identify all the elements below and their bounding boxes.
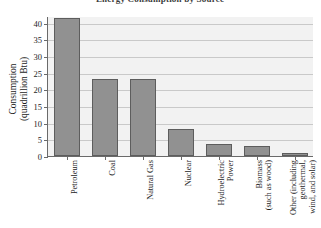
x-axis-label: Biomass(such as wood) (255, 160, 274, 226)
x-axis-label-line: wind, and solar) (307, 160, 316, 226)
x-axis-label-line: Other (including (289, 160, 298, 226)
y-axis-tick (44, 157, 48, 158)
y-axis-tick (44, 40, 48, 41)
y-axis-tick-label: 5 (20, 135, 42, 145)
y-axis-tick-label: 35 (20, 35, 42, 45)
gridline (48, 124, 313, 125)
x-axis-label-line: Coal (108, 160, 117, 226)
x-axis-label-line: Power (227, 160, 236, 226)
y-axis-tick (44, 140, 48, 141)
y-axis-tick-label: 15 (20, 102, 42, 112)
x-axis-label-line: (such as wood) (265, 160, 274, 226)
chart-title: Energy Consumption by Source (60, 0, 260, 4)
x-axis-label: HydroelectricPower (217, 160, 236, 226)
bar-biomass-such-as-wood (244, 146, 271, 156)
plot-area (47, 17, 313, 157)
bar-hydroelectric-power (206, 144, 233, 156)
x-axis-label-line: Petroleum (70, 160, 79, 226)
x-axis-label-line: Natural Gas (146, 160, 155, 226)
x-axis-label: Other (includinggeothermal,wind, and sol… (289, 160, 317, 226)
y-axis-tick-label: 20 (20, 85, 42, 95)
bar-coal (92, 79, 119, 156)
gridline (48, 24, 313, 25)
x-axis-label-line: geothermal, (298, 160, 307, 226)
x-axis-label: Coal (108, 160, 117, 226)
y-axis-tick-label: 0 (20, 152, 42, 162)
gridline (48, 74, 313, 75)
y-axis-tick-label: 40 (20, 19, 42, 29)
x-axis-label: Natural Gas (146, 160, 155, 226)
gridline (48, 57, 313, 58)
y-axis-title-line1: Consumption (8, 14, 19, 164)
x-axis-label: Nuclear (184, 160, 193, 226)
gridline (48, 40, 313, 41)
y-axis-tick-label: 25 (20, 69, 42, 79)
bar-nuclear (168, 129, 195, 156)
y-axis-tick (44, 124, 48, 125)
x-axis-labels: PetroleumCoalNatural GasNuclearHydroelec… (47, 160, 313, 228)
x-axis-label: Petroleum (70, 160, 79, 226)
bar-petroleum (54, 18, 81, 156)
x-axis-label-line: Hydroelectric (217, 160, 226, 226)
y-axis-tick (44, 24, 48, 25)
y-axis-tick (44, 90, 48, 91)
y-axis-tick-label: 10 (20, 119, 42, 129)
y-axis-tick (44, 57, 48, 58)
gridline (48, 107, 313, 108)
gridline (48, 90, 313, 91)
x-axis-label-line: Biomass (255, 160, 264, 226)
bar-natural-gas (130, 79, 157, 156)
y-axis-tick (44, 74, 48, 75)
bar-chart: Energy Consumption by Source Consumption… (0, 0, 321, 228)
y-axis-tick-label: 30 (20, 52, 42, 62)
x-axis-label-line: Nuclear (184, 160, 193, 226)
y-axis-tick (44, 107, 48, 108)
